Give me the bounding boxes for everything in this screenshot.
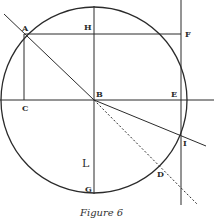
label-I: I: [183, 138, 187, 148]
label-C: C: [22, 103, 28, 113]
geometry-figure: A H F C B E I D L G Figure 6: [0, 0, 214, 220]
label-B: B: [96, 89, 103, 99]
line-A-B: [4, 14, 94, 100]
label-L: L: [82, 157, 90, 170]
label-A: A: [21, 23, 29, 33]
figure-caption: Figure 6: [79, 207, 124, 218]
label-F: F: [185, 29, 191, 39]
label-H: H: [84, 22, 92, 32]
label-D: D: [157, 169, 164, 179]
label-G: G: [85, 184, 92, 194]
line-B-D: [94, 100, 198, 205]
line-B-I: [94, 100, 206, 146]
label-E: E: [171, 89, 177, 99]
